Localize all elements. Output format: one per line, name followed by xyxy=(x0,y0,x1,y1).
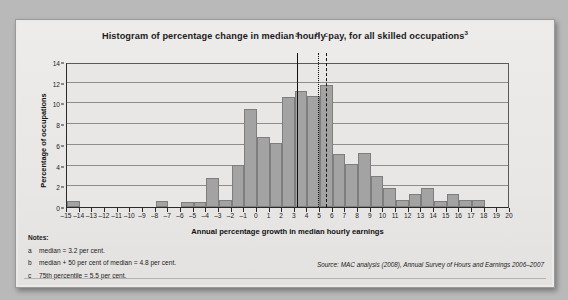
note-key: b xyxy=(28,257,34,270)
x-axis-tick-label: –1 xyxy=(240,212,247,219)
x-axis-tick-label: 2 xyxy=(279,212,283,219)
x-axis-tick xyxy=(471,208,472,212)
x-axis-tick xyxy=(117,208,118,212)
x-axis-tick xyxy=(281,208,282,212)
y-axis-tick-label: 8 xyxy=(56,122,60,129)
x-axis-tick xyxy=(155,208,156,212)
x-axis-tick-label: 19 xyxy=(493,212,500,219)
x-axis-tick xyxy=(458,208,459,212)
x-axis-tick xyxy=(433,208,434,212)
x-axis-tick xyxy=(142,208,143,212)
y-axis-tick xyxy=(61,145,64,146)
x-axis-tick xyxy=(319,208,320,212)
reference-line-label-b: b xyxy=(316,31,320,38)
x-axis-tick xyxy=(180,208,181,212)
reference-line-a: a xyxy=(297,53,298,207)
x-axis-tick xyxy=(294,208,295,212)
x-axis-tick-label: 13 xyxy=(417,212,424,219)
x-axis-tick xyxy=(218,208,219,212)
notes-list: amedian = 3.2 per cent.bmedian + 50 per … xyxy=(28,245,328,283)
source-caption: Source: MAC analysis (2008), Annual Surv… xyxy=(317,261,544,268)
x-axis-tick-label: 5 xyxy=(317,212,321,219)
bottom-divider xyxy=(24,278,546,279)
y-axis-tick xyxy=(61,208,64,209)
y-axis-tick xyxy=(61,104,64,105)
histogram-bar xyxy=(244,109,257,207)
x-axis-tick xyxy=(243,208,244,212)
note-key: a xyxy=(28,245,34,258)
x-axis-tick xyxy=(484,208,485,212)
histogram-bar xyxy=(383,188,396,207)
x-axis-tick xyxy=(446,208,447,212)
x-axis-labels: –15–14–13–12–11–10–9–8–7–6–5–4–3–2–10123… xyxy=(66,212,509,224)
x-axis-tick-label: 7 xyxy=(343,212,347,219)
x-axis-tick-label: 11 xyxy=(392,212,399,219)
x-axis-tick-label: 14 xyxy=(429,212,436,219)
note-text: median + 50 per cent of median = 4.8 per… xyxy=(39,257,176,270)
x-axis-tick-label: –5 xyxy=(189,212,196,219)
plot-area: abc xyxy=(66,63,509,208)
x-axis-tick-label: –15 xyxy=(60,212,71,219)
x-axis-tick-label: 9 xyxy=(368,212,372,219)
histogram-bar xyxy=(232,165,245,207)
histogram-bar xyxy=(472,200,485,207)
x-axis-tick-label: 6 xyxy=(330,212,334,219)
x-axis-tick-label: –6 xyxy=(176,212,183,219)
y-axis-tick-label: 10 xyxy=(53,101,60,108)
note-row: c75th percentile = 5.5 per cent. xyxy=(28,270,328,283)
figure-card: Histogram of percentage change in median… xyxy=(15,19,555,288)
x-axis-tick-label: 15 xyxy=(442,212,449,219)
x-axis-tick xyxy=(167,208,168,212)
histogram-bar xyxy=(358,153,371,207)
x-axis-tick xyxy=(66,208,67,212)
x-axis-tick-label: –11 xyxy=(111,212,122,219)
x-axis-tick-label: 16 xyxy=(455,212,462,219)
y-axis-tick-label: 0 xyxy=(56,205,60,212)
x-axis-tick-label: 20 xyxy=(505,212,512,219)
histogram-bar xyxy=(371,176,384,207)
x-axis-tick xyxy=(256,208,257,212)
x-axis-tick-label: –12 xyxy=(98,212,109,219)
histogram-bar xyxy=(270,143,283,207)
figure-inner: Histogram of percentage change in median… xyxy=(16,20,554,287)
x-axis-tick xyxy=(395,208,396,212)
x-axis-tick xyxy=(509,208,510,212)
note-text: median = 3.2 per cent. xyxy=(39,245,105,258)
reference-line-label-a: a xyxy=(295,31,299,38)
x-axis-tick-label: –9 xyxy=(138,212,145,219)
x-axis-tick xyxy=(269,208,270,212)
x-axis-tick-label: 8 xyxy=(355,212,359,219)
x-axis-tick xyxy=(205,208,206,212)
x-axis-tick xyxy=(408,208,409,212)
histogram-bars xyxy=(67,64,508,207)
x-axis-tick-label: –8 xyxy=(151,212,158,219)
notes-block: Notes: amedian = 3.2 per cent.bmedian + … xyxy=(28,232,328,282)
x-axis-tick xyxy=(129,208,130,212)
x-axis-tick-label: 10 xyxy=(379,212,386,219)
histogram-bar xyxy=(421,188,434,207)
x-axis-tick-label: –4 xyxy=(202,212,209,219)
histogram-bar xyxy=(206,178,219,207)
histogram-bar xyxy=(257,137,270,207)
y-axis-tick-label: 12 xyxy=(53,80,60,87)
x-axis-tick xyxy=(344,208,345,212)
page-background: Histogram of percentage change in median… xyxy=(0,0,568,300)
histogram-bar xyxy=(156,201,169,207)
y-axis-tick xyxy=(61,83,64,84)
histogram-bar xyxy=(333,154,346,207)
chart-title-footnote-marker: 3 xyxy=(465,29,469,36)
x-axis-tick-label: –10 xyxy=(124,212,135,219)
y-axis-tick-label: 6 xyxy=(56,142,60,149)
y-axis-tick-label: 14 xyxy=(53,60,60,67)
note-key: c xyxy=(28,270,34,283)
y-axis-tick xyxy=(61,187,64,188)
histogram-bar xyxy=(181,202,194,207)
histogram-bar xyxy=(434,201,447,207)
x-axis-tick xyxy=(420,208,421,212)
x-axis-tick xyxy=(231,208,232,212)
x-axis-tick xyxy=(357,208,358,212)
notes-heading: Notes: xyxy=(28,232,328,245)
reference-line-c: c xyxy=(326,53,327,207)
x-axis-tick-label: 12 xyxy=(404,212,411,219)
histogram-bar xyxy=(396,200,409,207)
